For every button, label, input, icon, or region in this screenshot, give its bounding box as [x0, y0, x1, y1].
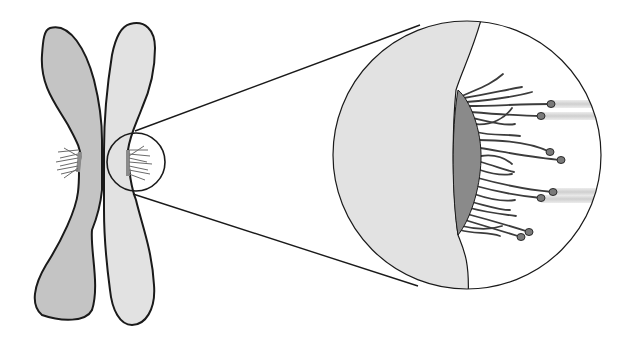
chromosome-diagram	[0, 0, 633, 343]
magnify-circle-large	[300, 0, 613, 300]
right-kinetochore-fibers	[128, 146, 152, 180]
diagram-stage	[0, 0, 633, 343]
left-chromatid	[35, 27, 102, 320]
left-kinetochore-fibers	[56, 148, 80, 178]
